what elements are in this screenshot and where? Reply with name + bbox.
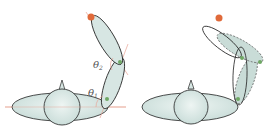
elbow-joint-right <box>240 56 244 60</box>
nose-marker-right <box>188 80 194 89</box>
target-dot-right <box>216 15 223 22</box>
theta2-label: θ2 <box>93 59 103 71</box>
left-panel: θ1 θ2 <box>5 12 129 125</box>
target-dot <box>88 14 95 21</box>
head-circle-right <box>174 90 208 124</box>
shoulder-joint-right <box>236 97 240 101</box>
right-panel <box>142 15 267 125</box>
robot-arm-diagram: θ1 θ2 <box>0 0 272 135</box>
alt-elbow-joint <box>258 60 262 64</box>
elbow-joint <box>118 60 122 64</box>
theta1-label: θ1 <box>88 87 98 99</box>
shoulder-joint <box>105 97 109 101</box>
nose-marker <box>59 80 65 90</box>
